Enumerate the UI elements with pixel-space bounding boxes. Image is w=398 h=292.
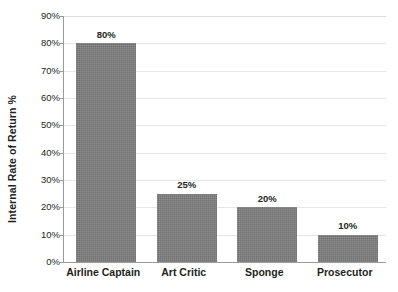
bar-group[interactable]: 80% xyxy=(76,16,136,262)
y-axis-tick-label: 80% xyxy=(41,39,60,49)
y-axis-tick-label: 40% xyxy=(41,148,60,158)
bar-value-label: 80% xyxy=(76,30,136,40)
y-axis-title: Internal Rate of Return % xyxy=(0,0,24,292)
y-axis-tick-label: 90% xyxy=(41,11,60,21)
bar-group[interactable]: 20% xyxy=(237,16,297,262)
y-axis-tick-label: 10% xyxy=(41,230,60,240)
bar-chart: Internal Rate of Return % 0%10%20%30%40%… xyxy=(0,0,398,292)
bar[interactable] xyxy=(76,43,136,262)
y-axis-tick-label: 0% xyxy=(46,257,60,267)
x-axis-category-label: Art Critic xyxy=(144,265,225,279)
bar-value-label: 25% xyxy=(157,180,217,190)
plot-area: 80%25%20%10% xyxy=(63,16,386,263)
bar[interactable] xyxy=(318,235,378,262)
bar-group[interactable]: 10% xyxy=(318,16,378,262)
y-axis-tick-label: 60% xyxy=(41,93,60,103)
bar[interactable] xyxy=(237,207,297,262)
y-axis-tick-label: 20% xyxy=(41,203,60,213)
x-axis-category-label: Sponge xyxy=(224,265,305,279)
bar-value-label: 20% xyxy=(237,194,297,204)
y-axis-tick-label: 70% xyxy=(41,66,60,76)
x-axis-category-label: Prosecutor xyxy=(305,265,386,279)
bar-value-label: 10% xyxy=(318,221,378,231)
x-axis-category-labels: Airline CaptainArt CriticSpongeProsecuto… xyxy=(63,265,385,281)
y-axis-tick-label: 50% xyxy=(41,121,60,131)
bar-group[interactable]: 25% xyxy=(157,16,217,262)
bars-layer: 80%25%20%10% xyxy=(64,16,386,262)
bar[interactable] xyxy=(157,194,217,262)
x-axis-category-label: Airline Captain xyxy=(63,265,144,279)
y-axis-tick-label: 30% xyxy=(41,175,60,185)
y-axis-tick-labels: 0%10%20%30%40%50%60%70%80%90% xyxy=(24,16,60,262)
y-axis-tick-mark xyxy=(60,262,64,263)
